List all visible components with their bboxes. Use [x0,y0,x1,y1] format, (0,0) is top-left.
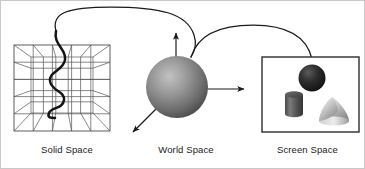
caption-screen-space: Screen Space [249,144,365,155]
screen-space-group [262,57,359,132]
solid-to-world-arc [55,7,195,57]
caption-solid-space: Solid Space [1,144,133,155]
screen-space-cylinder [285,91,303,117]
cube-grid-lines [14,45,110,131]
world-to-screen-arc [191,25,312,59]
solid-space-cube [14,31,110,131]
caption-world-space: World Space [125,144,247,155]
world-space-group [133,33,244,132]
solid-space-wavy-curve [48,31,65,118]
screen-space-sphere [299,65,326,92]
solid-texturing-diagram: Solid Space World Space Screen Space [0,0,365,169]
world-space-sphere [146,56,208,118]
